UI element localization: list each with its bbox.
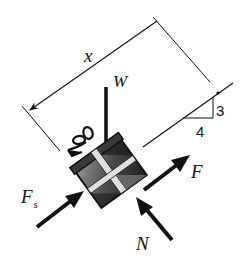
gift-bow xyxy=(68,126,94,156)
diagram-canvas xyxy=(0,0,249,273)
reference-point xyxy=(216,91,219,94)
label-slope-rise: 3 xyxy=(216,103,224,118)
label-n: N xyxy=(136,234,149,253)
free-body-diagram: x W 3 4 F Fs N xyxy=(0,0,249,273)
label-slope-run: 4 xyxy=(196,124,204,139)
force-arrow-f xyxy=(144,155,190,190)
label-f: F xyxy=(191,162,203,181)
label-fs: Fs xyxy=(21,187,37,206)
label-x: x xyxy=(84,46,92,65)
label-fs-subscript: s xyxy=(34,198,38,210)
label-w: W xyxy=(113,73,127,90)
force-arrow-fs xyxy=(37,191,84,227)
label-fs-main: F xyxy=(21,186,33,207)
dimension-line-x xyxy=(30,21,157,110)
